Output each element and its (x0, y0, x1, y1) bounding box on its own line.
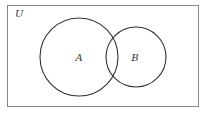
venn-diagram: U A B (0, 0, 203, 113)
set-a-label: A (74, 52, 82, 63)
universe-rectangle (8, 6, 199, 107)
set-b-label: B (130, 52, 138, 63)
universe-label: U (15, 8, 24, 19)
